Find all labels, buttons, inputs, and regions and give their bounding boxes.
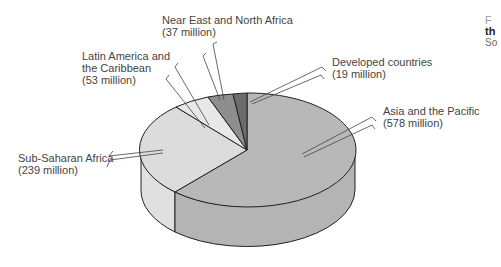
label-sub-saharan-name: Sub-Saharan Africa (18, 152, 113, 164)
label-near-east-value: (37 million) (162, 26, 293, 38)
label-latin-america-name-2: the Caribbean (82, 62, 170, 74)
figure-source: So (485, 37, 497, 49)
label-developed-name: Developed countries (332, 56, 432, 68)
label-latin-america: Latin America and the Caribbean (53 mill… (82, 50, 170, 86)
label-latin-america-value: (53 million) (82, 74, 170, 86)
label-developed: Developed countries (19 million) (332, 56, 432, 80)
label-sub-saharan-africa: Sub-Saharan Africa (239 million) (18, 152, 113, 176)
pie-chart (0, 0, 501, 267)
label-latin-america-name-1: Latin America and (82, 50, 170, 62)
label-near-east-name: Near East and North Africa (162, 14, 293, 26)
label-asia-pacific-value: (578 million) (383, 117, 480, 129)
label-sub-saharan-value: (239 million) (18, 164, 113, 176)
label-near-east: Near East and North Africa (37 million) (162, 14, 293, 38)
label-developed-value: (19 million) (332, 68, 432, 80)
figure-title: th (485, 25, 495, 37)
label-asia-pacific-name: Asia and the Pacific (383, 105, 480, 117)
label-asia-pacific: Asia and the Pacific (578 million) (383, 105, 480, 129)
